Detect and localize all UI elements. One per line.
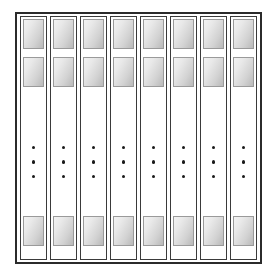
- vertical-ellipsis-icon: [21, 146, 46, 178]
- column-strip-2[interactable]: [50, 16, 77, 260]
- shaded-block-top: [233, 19, 254, 49]
- vertical-ellipsis-icon: [141, 146, 166, 178]
- ellipsis-dot: [242, 146, 245, 149]
- shaded-block-middle: [233, 57, 254, 87]
- ellipsis-dot: [122, 160, 125, 163]
- ellipsis-dot: [32, 175, 35, 178]
- shaded-block-bottom: [113, 216, 134, 246]
- column-strip-3[interactable]: [80, 16, 107, 260]
- ellipsis-dot: [122, 146, 125, 149]
- ellipsis-dot: [242, 175, 245, 178]
- shaded-block-middle: [83, 57, 104, 87]
- shaded-block-bottom: [203, 216, 224, 246]
- ellipsis-dot: [62, 146, 65, 149]
- ellipsis-dot: [152, 175, 155, 178]
- ellipsis-dot: [92, 160, 95, 163]
- ellipsis-dot: [62, 160, 65, 163]
- vertical-ellipsis-icon: [111, 146, 136, 178]
- shaded-block-bottom: [53, 216, 74, 246]
- shaded-block-middle: [203, 57, 224, 87]
- diagram-canvas: [0, 0, 273, 277]
- ellipsis-dot: [32, 146, 35, 149]
- ellipsis-dot: [182, 146, 185, 149]
- ellipsis-dot: [92, 175, 95, 178]
- shaded-block-middle: [113, 57, 134, 87]
- shaded-block-top: [113, 19, 134, 49]
- shaded-block-bottom: [23, 216, 44, 246]
- shaded-block-bottom: [143, 216, 164, 246]
- ellipsis-dot: [62, 175, 65, 178]
- ellipsis-dot: [242, 160, 245, 163]
- column-strip-6[interactable]: [170, 16, 197, 260]
- column-strip-8[interactable]: [230, 16, 257, 260]
- ellipsis-dot: [32, 160, 35, 163]
- shaded-block-middle: [23, 57, 44, 87]
- column-strip-7[interactable]: [200, 16, 227, 260]
- shaded-block-top: [53, 19, 74, 49]
- shaded-block-top: [23, 19, 44, 49]
- ellipsis-dot: [182, 175, 185, 178]
- outer-frame: [15, 12, 262, 264]
- vertical-ellipsis-icon: [171, 146, 196, 178]
- column-strip-5[interactable]: [140, 16, 167, 260]
- shaded-block-top: [203, 19, 224, 49]
- vertical-ellipsis-icon: [201, 146, 226, 178]
- ellipsis-dot: [212, 175, 215, 178]
- shaded-block-top: [143, 19, 164, 49]
- ellipsis-dot: [122, 175, 125, 178]
- shaded-block-middle: [53, 57, 74, 87]
- column-strip-1[interactable]: [20, 16, 47, 260]
- ellipsis-dot: [152, 160, 155, 163]
- shaded-block-middle: [143, 57, 164, 87]
- shaded-block-middle: [173, 57, 194, 87]
- ellipsis-dot: [152, 146, 155, 149]
- shaded-block-bottom: [83, 216, 104, 246]
- ellipsis-dot: [212, 146, 215, 149]
- shaded-block-top: [173, 19, 194, 49]
- shaded-block-bottom: [233, 216, 254, 246]
- column-strip-4[interactable]: [110, 16, 137, 260]
- vertical-ellipsis-icon: [81, 146, 106, 178]
- vertical-ellipsis-icon: [51, 146, 76, 178]
- ellipsis-dot: [92, 146, 95, 149]
- shaded-block-top: [83, 19, 104, 49]
- column-strip-row: [17, 14, 260, 262]
- ellipsis-dot: [182, 160, 185, 163]
- vertical-ellipsis-icon: [231, 146, 256, 178]
- ellipsis-dot: [212, 160, 215, 163]
- shaded-block-bottom: [173, 216, 194, 246]
